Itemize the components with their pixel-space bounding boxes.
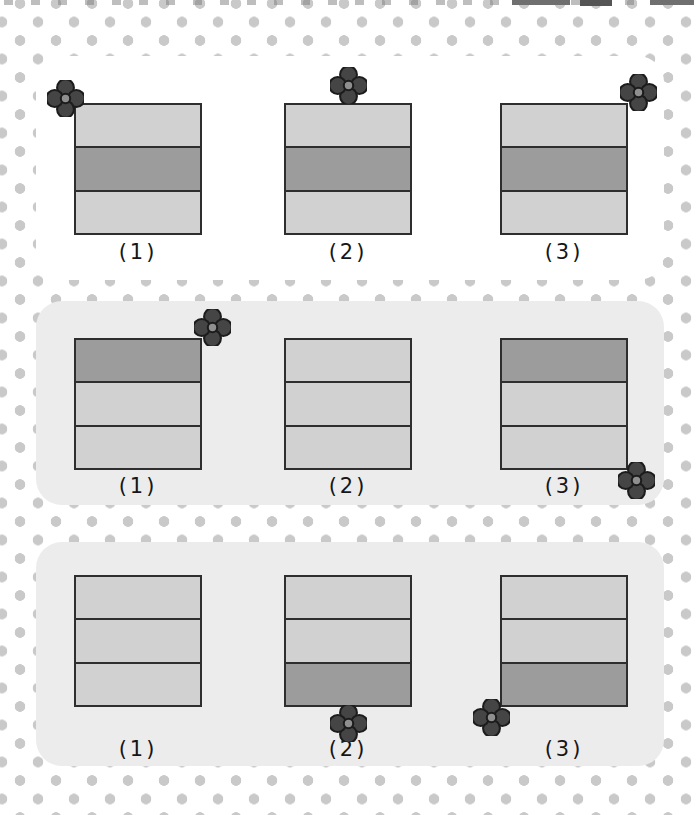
flower-marker-icon xyxy=(473,699,510,736)
fraction-square xyxy=(74,103,202,235)
exercise-group-1: (1) (2) (3) xyxy=(36,56,664,280)
fraction-band xyxy=(502,618,626,661)
fraction-band xyxy=(76,618,200,661)
fraction-square xyxy=(74,338,202,470)
fraction-band xyxy=(76,146,200,189)
figure-label: (3) xyxy=(500,241,628,264)
flower-marker-icon xyxy=(194,309,231,346)
fraction-band xyxy=(76,577,200,618)
fraction-band xyxy=(76,425,200,468)
figure-item: (1) xyxy=(74,338,202,498)
figure-label: (3) xyxy=(500,475,628,498)
fraction-band xyxy=(286,618,410,661)
fraction-band xyxy=(76,190,200,233)
fraction-band xyxy=(286,425,410,468)
figure-item: (3) xyxy=(500,575,628,761)
exercise-group-2: (1) (2) (3) xyxy=(36,301,664,505)
fraction-square xyxy=(500,103,628,235)
fraction-band xyxy=(286,340,410,381)
fraction-square xyxy=(284,575,412,707)
figure-item: (1) xyxy=(74,575,202,761)
fraction-band xyxy=(286,662,410,705)
fraction-band xyxy=(286,105,410,146)
fraction-square xyxy=(284,338,412,470)
fraction-square xyxy=(74,575,202,707)
figure-label: (1) xyxy=(74,241,202,264)
fraction-band xyxy=(502,105,626,146)
flower-marker-icon xyxy=(47,80,84,117)
fraction-band xyxy=(76,340,200,381)
figure-item: (2) xyxy=(284,575,412,761)
fraction-band xyxy=(76,105,200,146)
fraction-band xyxy=(502,662,626,705)
exercise-group-3: (1) (2) (3) xyxy=(36,542,664,766)
cropped-text-remnant xyxy=(4,0,694,5)
figure-item: (3) xyxy=(500,103,628,264)
flower-marker-icon xyxy=(620,74,657,111)
flower-marker-icon xyxy=(618,462,655,499)
fraction-band xyxy=(502,425,626,468)
fraction-band xyxy=(286,577,410,618)
fraction-square xyxy=(284,103,412,235)
flower-marker-icon xyxy=(330,705,367,742)
figure-label: (2) xyxy=(284,475,412,498)
fraction-band xyxy=(76,662,200,705)
figure-item: (1) xyxy=(74,103,202,264)
worksheet-page: (1) (2) (3) xyxy=(0,0,698,815)
fraction-band xyxy=(286,381,410,424)
fraction-square xyxy=(500,575,628,707)
figure-item: (2) xyxy=(284,338,412,498)
fraction-band xyxy=(76,381,200,424)
fraction-band xyxy=(286,146,410,189)
flower-marker-icon xyxy=(330,67,367,104)
fraction-band xyxy=(502,381,626,424)
figure-label: (3) xyxy=(500,738,628,761)
figure-label: (1) xyxy=(74,738,202,761)
figure-label: (1) xyxy=(74,475,202,498)
fraction-band xyxy=(502,146,626,189)
figure-item: (2) xyxy=(284,103,412,264)
fraction-band xyxy=(286,190,410,233)
figure-label: (2) xyxy=(284,241,412,264)
fraction-square xyxy=(500,338,628,470)
fraction-band xyxy=(502,577,626,618)
fraction-band xyxy=(502,340,626,381)
figure-item: (3) xyxy=(500,338,628,498)
fraction-band xyxy=(502,190,626,233)
